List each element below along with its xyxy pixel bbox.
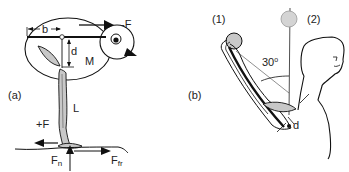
human-silhouette-icon (301, 37, 344, 159)
label-position-2: (2) (307, 14, 320, 25)
bird-body-icon (25, 18, 111, 80)
panel-b-label: (b) (188, 90, 201, 101)
leg-icon (59, 69, 70, 146)
angle-arc-icon (261, 76, 289, 81)
panel-a-label: (a) (8, 90, 21, 101)
label-d-b: d (293, 120, 299, 131)
label-angle: 30o (262, 56, 278, 68)
label-fn: Fn (51, 155, 62, 168)
label-m: M (85, 56, 94, 67)
figure: (a) b -F d M L +F Fn Ffr (b) (1) (2) 30o… (0, 0, 349, 172)
label-d-a: d (71, 46, 77, 57)
wing-icon (38, 46, 60, 66)
label-pos-f: +F (36, 119, 49, 130)
label-neg-f: -F (121, 19, 131, 30)
label-l: L (73, 103, 79, 114)
muscle-icon (263, 102, 296, 112)
label-ffr: Ffr (111, 155, 123, 168)
label-position-1: (1) (212, 14, 225, 25)
label-b: b (42, 24, 48, 35)
panel-a-drawing (0, 0, 349, 172)
ball-position-2-icon (281, 11, 297, 27)
